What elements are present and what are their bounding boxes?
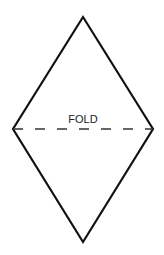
fold-diagram: FOLD [0, 0, 164, 255]
fold-label: FOLD [68, 113, 97, 125]
